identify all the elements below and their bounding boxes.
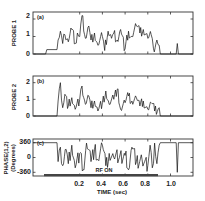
- panel-tag: (a): [37, 14, 44, 20]
- x-tick-label: 0.4: [96, 180, 106, 187]
- x-tick-label: 0.6: [118, 180, 128, 187]
- probe2-trace: [34, 83, 193, 116]
- y-axis-title-line2: (Degrees): [10, 144, 16, 172]
- y-tick-label: 0: [26, 112, 30, 119]
- panel-c: (c) 360 0 -360 PHASE(1,2) (Degrees) RF O…: [3, 138, 193, 176]
- figure: (a) 2 1 0 PROBE 1 (b) 2 1 0 PROBE 2 (c) …: [0, 0, 205, 201]
- y-tick-label: 360: [19, 138, 31, 145]
- y-axis-title: PROBE 2: [11, 83, 17, 110]
- x-axis: 0.2 0.4 0.6 0.8 1.0 TIME (sec): [74, 180, 176, 195]
- phase-trace: [33, 143, 193, 173]
- panel-b: (b) 2 1 0 PROBE 2: [11, 76, 193, 119]
- y-tick-label: 0: [27, 153, 31, 160]
- y-tick-label: 0: [26, 50, 30, 57]
- y-tick-label: 1: [26, 30, 30, 37]
- y-tick-label: 2: [26, 12, 30, 19]
- panel-a: (a) 2 1 0 PROBE 1: [11, 12, 193, 57]
- x-tick-label: 1.0: [166, 180, 176, 187]
- y-tick-label: -360: [17, 168, 31, 175]
- rf-on-label: RF ON: [95, 167, 112, 173]
- y-tick-label: 2: [26, 78, 30, 85]
- y-tick-label: 1: [26, 95, 30, 102]
- x-tick-label: 0.2: [74, 180, 84, 187]
- x-tick-label: 0.8: [140, 180, 150, 187]
- rf-on-bar: [44, 174, 158, 176]
- probe1-trace: [34, 16, 193, 55]
- panel-tag: (b): [37, 78, 44, 84]
- x-axis-title: TIME (sec): [97, 189, 127, 195]
- y-axis-title: PROBE 1: [11, 19, 17, 46]
- y-axis-title-line1: PHASE(1,2): [3, 141, 9, 174]
